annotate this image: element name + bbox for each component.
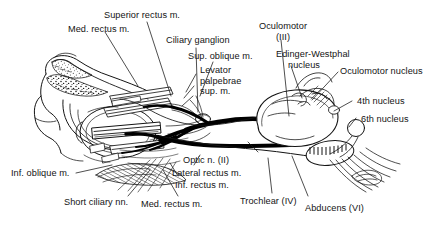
anatomical-illustration — [0, 0, 426, 226]
label-ciliary-ganglion: Ciliary ganglion — [166, 35, 230, 46]
label-inferior-rectus: Inf. rectus m. — [175, 180, 229, 191]
label-oculomotor-nucleus: Oculomotor nucleus — [340, 66, 423, 77]
label-levator-line3: sup. m. — [200, 86, 241, 97]
label-trochlear-nerve: Trochlear (IV) — [240, 196, 297, 207]
frontal-bone-outline — [41, 53, 152, 130]
label-levator-line1: Levator — [200, 65, 241, 76]
label-optic-nerve: Optic n. (II) — [183, 155, 229, 166]
fourth-nucleus — [329, 106, 340, 114]
label-edinger-line1: Edinger-Westphal — [276, 49, 350, 60]
label-med-rectus-inferior: Med. rectus m. — [141, 199, 202, 210]
label-oculomotor-nerve: Oculomotor (III) — [252, 21, 314, 42]
label-inferior-oblique: Inf. oblique m. — [11, 168, 69, 179]
brainstem-outline — [257, 90, 338, 147]
skull-lateral-contour — [34, 96, 83, 161]
anatomy-figure: Med. rectus m. Superior rectus m. Ciliar… — [0, 0, 426, 226]
label-med-rectus-superior: Med. rectus m. — [68, 24, 129, 35]
label-edinger-westphal-nucleus: Edinger-Westphal nucleus — [276, 49, 350, 70]
label-short-ciliary-nerves: Short ciliary nn. — [64, 197, 128, 208]
label-oculomotor-line2: (III) — [252, 32, 314, 43]
label-oculomotor-line1: Oculomotor — [252, 21, 314, 32]
label-fourth-nucleus: 4th nucleus — [357, 96, 405, 107]
label-sixth-nucleus: 6th nucleus — [361, 114, 409, 125]
label-abducens-nerve: Abducens (VI) — [305, 203, 364, 214]
label-superior-rectus: Superior rectus m. — [104, 10, 180, 21]
label-lateral-rectus: Lateral rectus m. — [172, 168, 241, 179]
label-levator-line2: palpebrae — [200, 76, 241, 87]
label-superior-oblique: Sup. oblique m. — [188, 51, 253, 62]
label-levator-palpebrae: Levator palpebrae sup. m. — [200, 65, 241, 97]
